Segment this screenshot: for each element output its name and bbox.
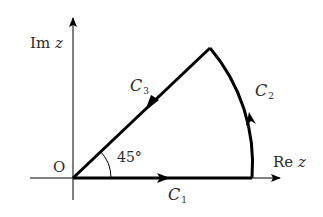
c2-sub: 2	[268, 91, 274, 101]
im-var: z	[55, 34, 63, 52]
contour-diagram-canvas	[0, 0, 323, 217]
contour-c2	[210, 48, 253, 178]
c3-sub: 3	[143, 86, 149, 96]
c2-arrow-icon	[246, 112, 256, 126]
angle-label: 45°	[117, 150, 142, 164]
angle-arc	[100, 151, 111, 178]
im-prefix: Im	[30, 34, 50, 52]
c2-label: C2	[255, 83, 274, 99]
c1-label: C1	[168, 187, 187, 203]
real-axis-label: Re z	[273, 155, 306, 170]
c1-sub: 1	[181, 195, 187, 205]
c3-name: C	[130, 76, 142, 95]
c1-name: C	[168, 185, 180, 204]
origin-label: O	[53, 160, 65, 175]
c3-label: C3	[130, 78, 149, 94]
re-prefix: Re	[273, 153, 293, 171]
re-var: z	[298, 153, 306, 171]
c2-name: C	[255, 81, 267, 100]
imaginary-axis-label: Im z	[30, 36, 63, 51]
